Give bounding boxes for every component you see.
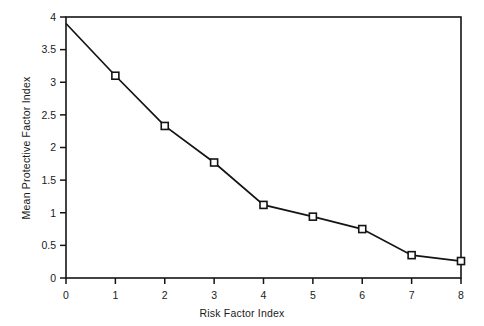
x-tick-label: 8 — [458, 289, 464, 301]
chart-background — [0, 0, 484, 326]
data-point-marker — [309, 213, 316, 220]
x-tick-label: 7 — [409, 289, 415, 301]
x-tick-label: 2 — [162, 289, 168, 301]
data-point-marker — [211, 159, 218, 166]
x-axis-title: Risk Factor Index — [199, 307, 285, 319]
x-tick-label: 0 — [63, 289, 69, 301]
y-tick-label: 2.5 — [41, 109, 56, 121]
x-tick-label: 5 — [310, 289, 316, 301]
x-tick-label: 6 — [359, 289, 365, 301]
y-axis-title: Mean Protective Factor Index — [20, 76, 32, 219]
x-tick-label: 1 — [112, 289, 118, 301]
y-tick-label: 1.5 — [41, 174, 56, 186]
y-tick-label: 2 — [50, 141, 56, 153]
chart-container: 012345678 00.511.522.533.54 Risk Factor … — [0, 0, 484, 326]
line-chart: 012345678 00.511.522.533.54 Risk Factor … — [0, 0, 484, 326]
data-point-marker — [458, 258, 465, 265]
data-point-marker — [112, 72, 119, 79]
data-point-marker — [260, 201, 267, 208]
y-tick-label: 4 — [50, 11, 56, 23]
y-tick-label: 1 — [50, 207, 56, 219]
data-point-marker — [161, 122, 168, 129]
y-tick-label: 3.5 — [41, 43, 56, 55]
x-tick-label: 4 — [261, 289, 267, 301]
x-tick-label: 3 — [211, 289, 217, 301]
y-tick-label: 0.5 — [41, 239, 56, 251]
y-tick-label: 3 — [50, 76, 56, 88]
y-tick-label: 0 — [50, 272, 56, 284]
data-point-marker — [408, 252, 415, 259]
data-point-marker — [359, 226, 366, 233]
